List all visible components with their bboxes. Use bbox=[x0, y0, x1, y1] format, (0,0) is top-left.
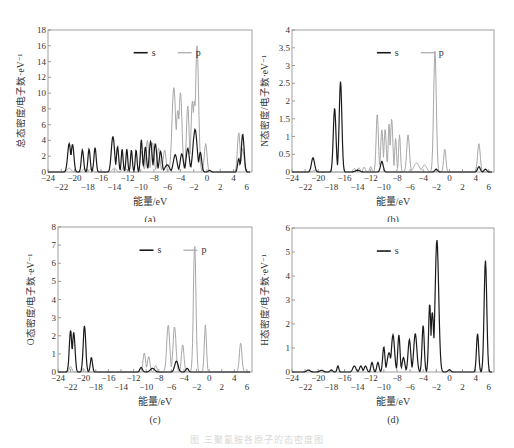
panel-label: (d) bbox=[387, 414, 399, 426]
legend-label-p: p bbox=[196, 47, 201, 58]
x-tick-label: 4 bbox=[232, 373, 237, 383]
x-tick-label: −10 bbox=[377, 382, 392, 392]
y-axis-label: 总态密度/电子数·eV⁻¹ bbox=[15, 53, 26, 148]
x-tick-label: −8 bbox=[149, 173, 159, 183]
y-tick-label: 2 bbox=[286, 319, 291, 329]
x-tick-label: −22 bbox=[54, 182, 68, 192]
x-tick-label: 6 bbox=[487, 382, 492, 392]
plot-frame bbox=[58, 227, 252, 372]
x-tick-label: 2 bbox=[218, 182, 223, 192]
x-tick-label: −2 bbox=[431, 182, 441, 192]
y-tick-label: 5 bbox=[52, 276, 57, 286]
legend-label-s: s bbox=[395, 47, 399, 58]
legend-label-s: s bbox=[395, 245, 399, 256]
y-tick-label: 2 bbox=[42, 151, 47, 161]
x-tick-label: −6 bbox=[405, 382, 415, 392]
x-tick-label: 2 bbox=[460, 182, 465, 192]
y-axis-label: O态密度/电子数·eV⁻¹ bbox=[25, 254, 36, 346]
x-tick-label: 2 bbox=[460, 382, 465, 392]
series-s-line bbox=[292, 240, 492, 372]
x-tick-label: −4 bbox=[179, 373, 189, 383]
y-tick-label: 1.5 bbox=[279, 114, 291, 124]
x-tick-label: 4 bbox=[231, 173, 236, 183]
y-tick-label: 6 bbox=[286, 223, 291, 233]
series-p-line bbox=[292, 51, 492, 172]
y-tick-label: 8 bbox=[42, 104, 47, 114]
x-tick-label: −4 bbox=[418, 173, 428, 183]
x-tick-label: −12 bbox=[364, 373, 378, 383]
y-tick-label: 2.5 bbox=[279, 78, 291, 88]
y-tick-label: 2 bbox=[286, 96, 291, 106]
dos-chart-hydrogen: 0123456−24−20−16−12−8−404−22−18−14−10−6−… bbox=[257, 222, 514, 444]
x-tick-label: 0 bbox=[447, 173, 452, 183]
x-axis-label: 能量/eV bbox=[133, 195, 168, 207]
x-axis-label: 能量/eV bbox=[376, 395, 411, 407]
y-axis-label: H态密度/电子数·eV⁻¹ bbox=[259, 254, 270, 346]
y-tick-label: 1 bbox=[286, 343, 291, 353]
y-tick-label: 18 bbox=[37, 25, 47, 35]
x-tick-label: −22 bbox=[298, 182, 312, 192]
legend-label-s: s bbox=[152, 47, 156, 58]
panel-label: (a) bbox=[144, 214, 155, 222]
plot-frame bbox=[292, 228, 494, 372]
x-tick-label: 6 bbox=[245, 382, 250, 392]
x-axis-label: 能量/eV bbox=[376, 195, 411, 207]
x-tick-label: −12 bbox=[364, 173, 378, 183]
x-tick-label: −8 bbox=[392, 173, 402, 183]
y-tick-label: 10 bbox=[37, 88, 47, 98]
panel-a: 024681012141618−24−20−16−12−8−404−22−18−… bbox=[0, 0, 257, 222]
x-tick-label: −10 bbox=[134, 182, 149, 192]
figure-caption: 图 三聚氰胺各原子的态密度图 bbox=[0, 433, 514, 446]
x-tick-label: −14 bbox=[351, 182, 366, 192]
y-tick-label: 14 bbox=[37, 57, 47, 67]
x-tick-label: 4 bbox=[473, 173, 478, 183]
legend-label-p: p bbox=[439, 47, 444, 58]
x-tick-label: −22 bbox=[64, 382, 78, 392]
x-tick-label: −6 bbox=[167, 382, 177, 392]
panel-label: (c) bbox=[149, 414, 160, 426]
x-tick-label: −8 bbox=[392, 373, 402, 383]
y-tick-label: 2 bbox=[52, 331, 57, 341]
dos-chart-nitrogen: 00.511.522.533.54−24−20−16−12−8−404−22−1… bbox=[257, 0, 514, 222]
x-tick-label: −2 bbox=[192, 382, 202, 392]
x-tick-label: 0 bbox=[207, 373, 212, 383]
y-tick-label: 3 bbox=[52, 313, 57, 323]
y-tick-label: 6 bbox=[42, 120, 47, 130]
x-tick-label: −6 bbox=[405, 182, 415, 192]
x-tick-label: −2 bbox=[431, 382, 441, 392]
y-tick-label: 4 bbox=[52, 295, 57, 305]
panel-label: (b) bbox=[387, 214, 399, 222]
y-tick-label: 3 bbox=[286, 295, 291, 305]
y-axis-label: N态密度/电子数·eV⁻¹ bbox=[259, 55, 270, 147]
y-tick-label: 4 bbox=[42, 135, 47, 145]
dos-chart-oxygen: 012345678−24−20−16−12−8−404−22−18−14−10−… bbox=[0, 222, 257, 444]
dos-chart-total: 024681012141618−24−20−16−12−8−404−22−18−… bbox=[0, 0, 257, 222]
panel-b: 00.511.522.533.54−24−20−16−12−8−404−22−1… bbox=[257, 0, 514, 222]
series-s-line bbox=[48, 129, 250, 172]
panel-c: 012345678−24−20−16−12−8−404−22−18−14−10−… bbox=[0, 222, 257, 444]
x-tick-label: −6 bbox=[162, 182, 172, 192]
panel-d: 0123456−24−20−16−12−8−404−22−18−14−10−6−… bbox=[257, 222, 514, 444]
x-tick-label: 0 bbox=[447, 373, 452, 383]
x-tick-label: 6 bbox=[487, 182, 492, 192]
x-tick-label: −22 bbox=[298, 382, 312, 392]
y-tick-label: 1 bbox=[52, 349, 57, 359]
x-tick-label: −14 bbox=[107, 182, 122, 192]
x-tick-label: −2 bbox=[189, 182, 199, 192]
x-tick-label: 6 bbox=[244, 182, 249, 192]
x-tick-label: −18 bbox=[324, 382, 339, 392]
x-tick-label: −14 bbox=[351, 382, 366, 392]
y-tick-label: 3.5 bbox=[279, 43, 291, 53]
x-tick-label: −4 bbox=[418, 373, 428, 383]
y-tick-label: 1 bbox=[286, 132, 291, 142]
series-p-line bbox=[58, 247, 250, 372]
legend-label-p: p bbox=[201, 244, 206, 255]
x-tick-label: −14 bbox=[114, 382, 129, 392]
x-tick-label: 2 bbox=[220, 382, 225, 392]
x-tick-label: −18 bbox=[89, 382, 104, 392]
x-tick-label: 0 bbox=[205, 173, 210, 183]
x-tick-label: −10 bbox=[377, 182, 392, 192]
series-s-line bbox=[58, 326, 250, 372]
y-tick-label: 5 bbox=[286, 247, 291, 257]
x-axis-label: 能量/eV bbox=[138, 395, 173, 407]
